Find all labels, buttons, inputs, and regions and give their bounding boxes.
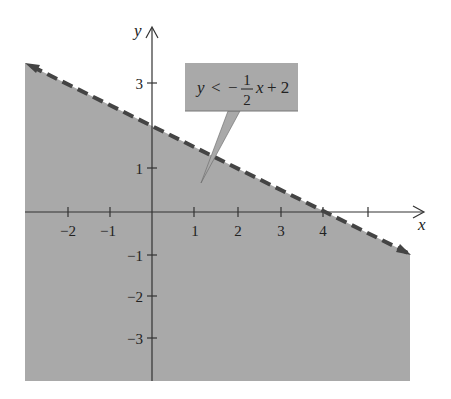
y-tick-label: −3 — [127, 331, 143, 347]
x-tick-label: 1 — [191, 223, 199, 239]
callout-rest: + 2 — [267, 78, 289, 97]
callout-sign: − — [228, 78, 238, 97]
y-tick-label: 1 — [136, 161, 144, 177]
callout-var: x — [255, 78, 264, 97]
x-tick-label: 2 — [234, 223, 242, 239]
y-tick-label: −2 — [127, 289, 143, 305]
x-tick-label: 4 — [319, 223, 327, 239]
y-tick-label: 3 — [136, 76, 144, 92]
x-tick-label: −1 — [100, 223, 116, 239]
callout-fraction-num: 1 — [243, 72, 251, 88]
x-tick-label: 3 — [277, 223, 285, 239]
y-tick-label: −1 — [127, 248, 143, 264]
x-axis-label: x — [417, 215, 426, 234]
callout-op: < — [211, 78, 221, 97]
x-tick-label: −2 — [60, 223, 76, 239]
y-axis-label: y — [132, 21, 142, 40]
inequality-graph: −2 −1 1 2 3 4 x 3 1 −1 −2 −3 y y — [0, 0, 451, 399]
callout-fraction-den: 2 — [243, 92, 251, 108]
callout-lhs: y — [195, 78, 205, 97]
